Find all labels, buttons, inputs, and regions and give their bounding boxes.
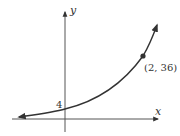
intercept-label: 4: [56, 99, 62, 110]
y-axis-label: y: [69, 4, 77, 17]
exponential-curve: [19, 25, 157, 117]
x-axis-label: x: [155, 105, 162, 118]
exponential-graph: y x 4 (2, 36): [0, 0, 180, 136]
marked-point: [140, 53, 145, 58]
point-label: (2, 36): [144, 62, 177, 73]
